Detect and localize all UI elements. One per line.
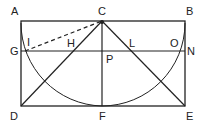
segment-ce xyxy=(102,21,185,106)
label-l: L xyxy=(129,37,135,49)
label-n: N xyxy=(187,45,195,57)
label-f: F xyxy=(99,110,106,122)
geometry-diagram: A C B G I H L O N P D F E xyxy=(0,0,203,125)
label-o: O xyxy=(170,37,179,49)
label-g: G xyxy=(10,45,19,57)
semicircle-arc xyxy=(21,23,185,106)
label-c: C xyxy=(98,5,106,17)
label-a: A xyxy=(11,5,19,17)
label-i: I xyxy=(27,36,30,48)
label-d: D xyxy=(10,110,18,122)
label-e: E xyxy=(186,110,193,122)
label-p: P xyxy=(106,53,113,65)
label-h: H xyxy=(67,37,75,49)
label-b: B xyxy=(186,5,193,17)
rectangle-abed xyxy=(21,21,185,106)
dashed-segment-ic xyxy=(25,21,102,51)
segment-cd xyxy=(21,21,102,106)
point-c-dot xyxy=(100,20,104,24)
